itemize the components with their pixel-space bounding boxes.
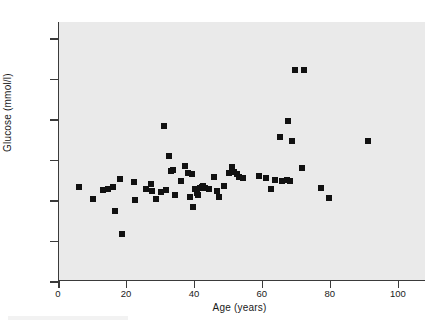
data-point	[299, 165, 305, 171]
x-axis-title: Age (years)	[0, 302, 439, 313]
x-tick-mark	[262, 281, 264, 288]
data-point	[153, 196, 159, 202]
x-tick-label: 80	[315, 288, 345, 299]
data-point	[131, 179, 137, 185]
data-point	[163, 187, 169, 193]
x-tick-label: 100	[383, 288, 413, 299]
x-tick-label: 40	[179, 288, 209, 299]
data-point	[289, 138, 295, 144]
data-point	[240, 175, 246, 181]
data-point	[326, 195, 332, 201]
data-point	[76, 184, 82, 190]
data-point	[216, 194, 222, 200]
data-point	[170, 167, 176, 173]
data-point	[90, 196, 96, 202]
data-point	[187, 194, 193, 200]
data-point	[263, 175, 269, 181]
data-point	[110, 184, 116, 190]
data-point	[189, 171, 195, 177]
x-tick-label: 20	[111, 288, 141, 299]
y-tick-mark	[50, 119, 58, 121]
data-point	[365, 138, 371, 144]
x-tick-mark	[398, 281, 400, 288]
data-point	[117, 176, 123, 182]
data-point	[287, 178, 293, 184]
scatter-plot-figure: Glucose (mmol/l) 2468101214 020406080100…	[0, 0, 439, 323]
x-tick-mark	[126, 281, 128, 288]
data-markers-layer	[59, 22, 425, 280]
data-point	[206, 186, 212, 192]
data-point	[119, 231, 125, 237]
data-point	[148, 181, 154, 187]
data-point	[166, 153, 172, 159]
data-point	[256, 173, 262, 179]
x-tick-mark	[330, 281, 332, 288]
scan-artifact	[8, 316, 128, 320]
data-point	[112, 208, 118, 214]
data-point	[318, 185, 324, 191]
y-tick-mark	[50, 281, 58, 283]
plot-panel	[58, 22, 425, 281]
data-point	[292, 67, 298, 73]
data-point	[178, 178, 184, 184]
data-point	[272, 177, 278, 183]
data-point	[277, 134, 283, 140]
y-tick-mark	[50, 200, 58, 202]
x-axis-title-text: Age (years)	[213, 302, 267, 313]
y-tick-mark	[50, 38, 58, 40]
data-point	[211, 174, 217, 180]
x-tick-label: 60	[247, 288, 277, 299]
y-axis-title: Glucose (mmol/l)	[2, 73, 13, 152]
y-tick-mark	[50, 160, 58, 162]
data-point	[190, 204, 196, 210]
y-tick-mark	[50, 79, 58, 81]
data-point	[132, 197, 138, 203]
data-point	[195, 192, 201, 198]
y-tick-mark	[50, 241, 58, 243]
data-point	[301, 67, 307, 73]
data-point	[161, 123, 167, 129]
data-point	[268, 186, 274, 192]
x-tick-label: 0	[43, 288, 73, 299]
data-point	[285, 118, 291, 124]
data-point	[172, 192, 178, 198]
data-point	[182, 163, 188, 169]
x-tick-mark	[58, 281, 60, 288]
data-point	[149, 188, 155, 194]
x-tick-mark	[194, 281, 196, 288]
data-point	[221, 183, 227, 189]
